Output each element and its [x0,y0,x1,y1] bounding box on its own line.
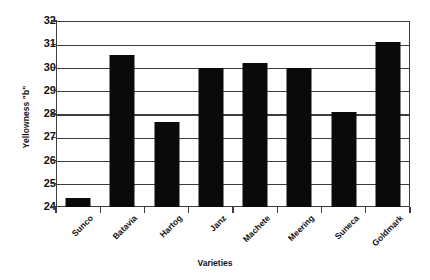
x-category-label: Sunco [46,213,95,262]
bar-slot [145,21,189,207]
bar [287,68,312,208]
bar [331,112,356,207]
bar-series [56,21,410,207]
x-category-label: Meering [267,213,316,262]
x-category-label: Goldmark [355,213,404,262]
x-category-label: Suneca [311,213,360,262]
x-category-label: Machete [223,213,272,262]
bar [66,198,91,207]
bar-slot [189,21,233,207]
x-category-label: Batavia [90,213,139,262]
x-axis-title: Varieties [0,258,430,268]
bar-slot [277,21,321,207]
bar-chart: Yellowness "b" 242526272829303132 SuncoB… [0,0,430,280]
bar-slot [100,21,144,207]
bar-slot [233,21,277,207]
x-axis-labels: SuncoBataviaHartogJanzMacheteMeeringSune… [56,213,410,263]
bar [154,122,179,207]
bar [110,55,135,207]
bar-slot [322,21,366,207]
bar [375,42,400,207]
bar-slot [366,21,410,207]
bar [243,63,268,207]
bar [198,68,223,208]
bar-slot [56,21,100,207]
x-category-label: Janz [178,213,227,262]
x-category-label: Hartog [134,213,183,262]
